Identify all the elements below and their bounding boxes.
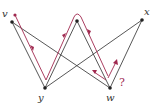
walk-start-dot bbox=[13, 13, 16, 16]
edge-y-top bbox=[45, 21, 77, 88]
vertex-top bbox=[75, 19, 79, 23]
vertex-v bbox=[10, 20, 14, 24]
vertex-label-v: v bbox=[2, 8, 8, 19]
vertex-label-y: y bbox=[37, 92, 44, 103]
vertex-y bbox=[43, 86, 47, 90]
vertex-x bbox=[140, 18, 144, 22]
vertex-label-w: w bbox=[106, 92, 115, 103]
edge-v-y bbox=[12, 22, 45, 88]
question-mark: ? bbox=[119, 76, 125, 89]
graph-diagram: ? v x y w bbox=[0, 0, 158, 106]
vertex-label-x: x bbox=[144, 6, 150, 17]
arrow-up-right-icon bbox=[113, 59, 118, 65]
vertex-w bbox=[108, 86, 112, 90]
edge-x-w bbox=[110, 20, 142, 88]
walk-branch-to-x bbox=[108, 62, 116, 78]
